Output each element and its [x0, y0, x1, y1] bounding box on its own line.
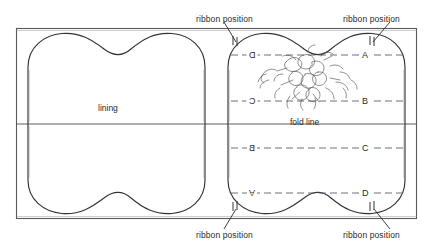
- guide-letter-row4-left: A: [247, 188, 257, 198]
- guide-letter-row2-left: C: [247, 96, 258, 106]
- lining-label: lining: [98, 103, 118, 113]
- ribbon-position-label-bottom-right: ribbon position: [343, 230, 400, 240]
- left-panel-lining-outline: [28, 33, 205, 213]
- guide-letter-row1-right: A: [360, 50, 370, 60]
- pattern-diagram: [0, 0, 440, 252]
- ribbon-position-label-top-left: ribbon position: [196, 14, 253, 24]
- ribbon-position-label-bottom-left: ribbon position: [196, 230, 253, 240]
- guide-letter-row4-right: D: [360, 188, 371, 198]
- diagram-canvas: ribbon position ribbon position ribbon p…: [0, 0, 440, 252]
- outer-frame: [17, 29, 417, 219]
- leader-line-top-right: [373, 22, 390, 42]
- guide-letter-row3-left: B: [247, 143, 257, 153]
- leader-line-top-left: [224, 22, 236, 42]
- guide-letter-row2-right: B: [360, 96, 370, 106]
- guide-letter-row1-left: D: [247, 50, 258, 60]
- guide-letter-row3-right: C: [360, 143, 371, 153]
- ribbon-position-label-top-right: ribbon position: [343, 14, 400, 24]
- ribbon-tick-bottom-right: [370, 201, 374, 211]
- fold-line-label: fold line: [290, 117, 319, 127]
